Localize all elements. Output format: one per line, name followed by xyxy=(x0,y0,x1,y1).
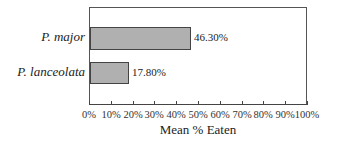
x-tick-label: 10% xyxy=(101,109,120,120)
x-tick xyxy=(242,101,243,105)
x-tick-label: 20% xyxy=(123,109,142,120)
x-tick-label: 70% xyxy=(232,109,251,120)
x-tick-label: 0% xyxy=(82,109,96,120)
x-tick-label: 100% xyxy=(295,109,320,120)
x-tick-label: 80% xyxy=(253,109,272,120)
x-tick xyxy=(263,101,264,105)
x-tick-label: 90% xyxy=(275,109,294,120)
bar-p-major xyxy=(90,27,191,50)
x-tick xyxy=(176,101,177,105)
x-tick-label: 50% xyxy=(188,109,207,120)
value-label-p-major: 46.30% xyxy=(194,31,228,43)
x-tick xyxy=(89,101,90,105)
x-tick-label: 60% xyxy=(210,109,229,120)
value-label-p-lanceolata: 17.80% xyxy=(132,66,166,78)
x-tick xyxy=(111,101,112,105)
x-tick-label: 40% xyxy=(166,109,185,120)
x-tick xyxy=(220,101,221,105)
bar-p-lanceolata xyxy=(90,62,129,84)
x-tick xyxy=(285,101,286,105)
plot-area xyxy=(89,7,307,104)
x-tick xyxy=(133,101,134,105)
x-tick xyxy=(198,101,199,105)
x-axis-title: Mean % Eaten xyxy=(160,122,237,138)
category-label-p-major: P. major xyxy=(41,29,85,45)
x-tick xyxy=(307,101,308,105)
x-tick xyxy=(154,101,155,105)
x-tick-label: 30% xyxy=(144,109,163,120)
category-label-p-lanceolata: P. lanceolata xyxy=(17,64,85,80)
